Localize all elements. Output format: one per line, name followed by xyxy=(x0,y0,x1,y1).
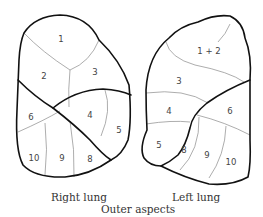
right-seg-5: 5 xyxy=(116,125,121,135)
left-seg-1-2: 1 + 2 xyxy=(197,46,220,56)
left-seg-line-9-10 xyxy=(209,126,226,178)
left-seg-line-4-5 xyxy=(146,121,190,124)
caption: Outer aspects xyxy=(101,203,175,215)
left-lung-label: Left lung xyxy=(172,191,220,203)
right-seg-3: 3 xyxy=(92,67,97,77)
right-seg-10: 10 xyxy=(29,153,40,163)
left-seg-8: 8 xyxy=(181,145,186,155)
right-seg-9: 9 xyxy=(59,153,64,163)
right-seg-line-4-5 xyxy=(101,90,108,136)
lung-segments-diagram: 1 2 3 4 5 6 10 9 8 1 + 2 3 4 6 5 8 9 10 xyxy=(0,0,263,217)
right-seg-8: 8 xyxy=(87,154,92,164)
left-seg-line-3-4 xyxy=(146,92,208,103)
right-seg-2: 2 xyxy=(41,71,46,81)
left-seg-line-apical xyxy=(218,24,230,42)
left-seg-line-6 xyxy=(197,115,250,135)
right-seg-1: 1 xyxy=(58,34,63,44)
right-seg-6: 6 xyxy=(28,112,33,122)
segment-numbers: 1 2 3 4 5 6 10 9 8 1 + 2 3 4 6 5 8 9 10 xyxy=(28,34,236,167)
right-seg-line-2-3 xyxy=(69,70,70,107)
right-seg-line-1-3 xyxy=(70,40,99,70)
left-seg-4: 4 xyxy=(166,106,171,116)
right-seg-line-9-8 xyxy=(70,121,74,177)
left-seg-6: 6 xyxy=(227,106,232,116)
right-seg-line-10-9 xyxy=(45,123,47,175)
left-seg-10: 10 xyxy=(226,157,237,167)
left-seg-line-8-9 xyxy=(180,117,199,170)
right-seg-line-6 xyxy=(18,111,60,132)
left-seg-9: 9 xyxy=(204,150,209,160)
right-seg-4: 4 xyxy=(87,110,92,120)
left-seg-5: 5 xyxy=(156,140,161,150)
right-horizontal-fissure xyxy=(53,89,131,108)
left-seg-3: 3 xyxy=(176,76,181,86)
right-lung-label: Right lung xyxy=(51,191,107,203)
